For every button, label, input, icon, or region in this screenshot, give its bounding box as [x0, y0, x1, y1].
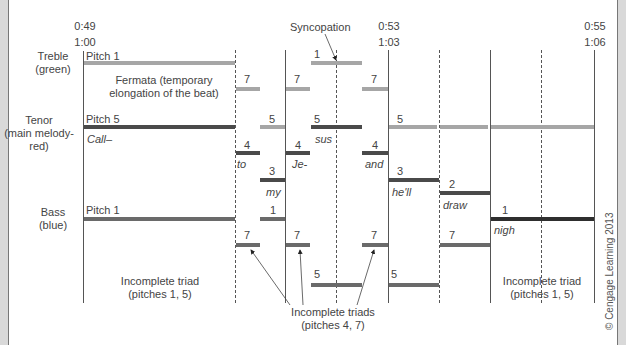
arrow-icon	[357, 250, 374, 305]
syncopation-arrow-icon	[325, 34, 336, 60]
arrow-icon	[251, 250, 290, 305]
arrow-icon	[300, 250, 303, 305]
copyright-text: © Cengage Learning 2013	[604, 213, 615, 330]
annotation-arrows	[0, 0, 626, 345]
